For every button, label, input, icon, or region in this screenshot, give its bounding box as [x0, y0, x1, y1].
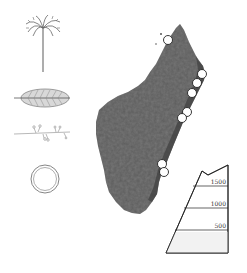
tick-label-1000: 1000 [211, 200, 226, 207]
tick-label-1500: 1500 [211, 178, 226, 185]
elevation-profile: 1500 1000 500 [0, 0, 247, 273]
tick-label-500: 500 [215, 222, 227, 229]
